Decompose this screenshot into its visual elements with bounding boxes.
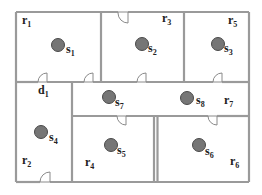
doors — [38, 12, 222, 182]
door-label-d1: d1 — [38, 83, 49, 99]
door-top-r3 — [118, 12, 128, 23]
room-label-r7: r7 — [224, 93, 233, 109]
room-label-r4: r4 — [85, 155, 94, 171]
door-r4-corridor — [117, 116, 126, 125]
room-label-r1: r1 — [22, 13, 31, 29]
sensor-label-s3: s3 — [224, 41, 233, 57]
sensor-s3-icon — [212, 38, 225, 51]
door-r1-corridor — [84, 73, 93, 82]
walls — [16, 12, 249, 182]
sensor-s2-icon — [136, 38, 149, 51]
sensor-label-s4: s4 — [49, 130, 58, 146]
floor-plan-diagram: s1s2s3s4s5s6s7s8r1r3r5r7r2r4r6d1 — [0, 0, 262, 195]
room-label-r2: r2 — [22, 153, 31, 169]
sensor-label-s6: s6 — [205, 144, 214, 160]
room-label-r6: r6 — [230, 154, 239, 170]
room-label-r5: r5 — [228, 13, 237, 29]
sensor-s6-icon — [193, 139, 206, 152]
room-label-r3: r3 — [162, 11, 171, 27]
sensor-label-s8: s8 — [196, 93, 205, 109]
door-r6-corridor — [208, 116, 217, 125]
sensor-s5-icon — [105, 139, 118, 152]
sensor-label-s1: s1 — [66, 42, 75, 58]
sensor-s7-icon — [103, 91, 116, 104]
labels: s1s2s3s4s5s6s7s8r1r3r5r7r2r4r6d1 — [22, 11, 239, 171]
sensor-s1-icon — [52, 39, 65, 52]
door-r2-bottom — [40, 172, 50, 182]
door-r3-corridor — [137, 73, 146, 82]
sensor-label-s5: s5 — [117, 143, 126, 159]
door-r5-corridor — [213, 73, 222, 82]
sensor-label-s7: s7 — [115, 95, 124, 111]
sensor-s4-icon — [35, 126, 48, 139]
door-d1 — [38, 73, 47, 82]
sensor-s8-icon — [181, 92, 194, 105]
sensor-label-s2: s2 — [148, 41, 157, 57]
